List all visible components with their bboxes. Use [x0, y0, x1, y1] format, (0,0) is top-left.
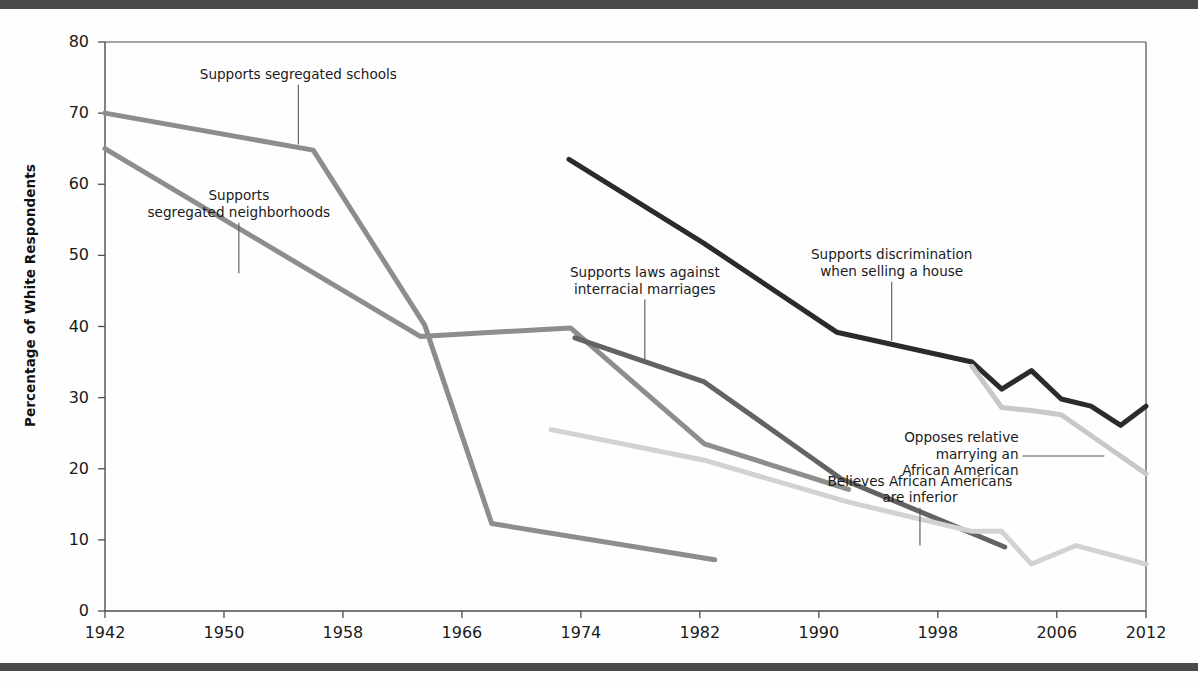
x-tick-label-1974: 1974	[541, 623, 621, 642]
figure-page: Percentage of White Respondents 01020304…	[0, 0, 1198, 689]
annotation-opposes-relative-marrying-an-african-american: Opposes relative marrying an African Ame…	[819, 429, 1019, 479]
x-tick-label-2006: 2006	[1017, 623, 1097, 642]
x-tick-label-1990: 1990	[779, 623, 859, 642]
top-rule	[0, 0, 1198, 9]
y-axis-title: Percentage of White Respondents	[22, 207, 38, 427]
line-chart: Percentage of White Respondents 01020304…	[0, 9, 1198, 663]
chart-canvas	[0, 9, 1198, 663]
x-tick-label-1982: 1982	[660, 623, 740, 642]
annotation-supports-segregated-schools: Supports segregated schools	[158, 66, 438, 83]
x-tick-label-2012: 2012	[1106, 623, 1186, 642]
x-tick-label-1950: 1950	[184, 623, 264, 642]
y-tick-label-20: 20	[49, 459, 89, 478]
x-tick-label-1942: 1942	[65, 623, 145, 642]
x-tick-label-1966: 1966	[422, 623, 502, 642]
bottom-rule	[0, 663, 1198, 671]
y-tick-label-40: 40	[49, 317, 89, 336]
x-tick-label-1958: 1958	[303, 623, 383, 642]
x-tick-label-1998: 1998	[898, 623, 978, 642]
y-tick-label-60: 60	[49, 174, 89, 193]
annotation-supports-segregated-neighborhoods: Supports segregated neighborhoods	[99, 187, 379, 220]
y-tick-label-30: 30	[49, 388, 89, 407]
y-tick-label-70: 70	[49, 103, 89, 122]
y-tick-label-0: 0	[49, 601, 89, 620]
series-line-supports-segregated-schools	[105, 113, 715, 560]
y-tick-label-80: 80	[49, 32, 89, 51]
annotation-supports-discrimination-when-selling-a-house: Supports discrimination when selling a h…	[752, 246, 1032, 279]
annotation-supports-laws-against-interracial-marriages: Supports laws against interracial marria…	[505, 264, 785, 297]
y-tick-label-50: 50	[49, 245, 89, 264]
y-tick-label-10: 10	[49, 530, 89, 549]
